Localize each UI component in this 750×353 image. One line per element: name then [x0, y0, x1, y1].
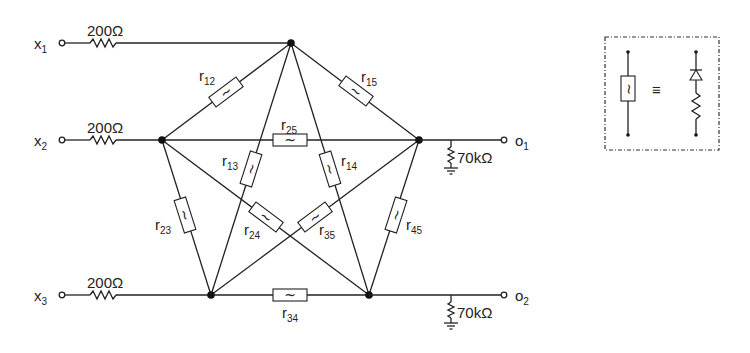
- output-o1: 70kΩ o1: [419, 132, 529, 174]
- label-r12: r12: [199, 67, 216, 87]
- label-x3: x3: [34, 287, 48, 307]
- resistor-200-icon: [90, 39, 116, 47]
- input-x2: x2 200Ω: [34, 119, 162, 152]
- terminal-x1: [59, 40, 65, 46]
- load-value-o1: 70kΩ: [457, 149, 492, 166]
- resistor-value-x1: 200Ω: [87, 22, 123, 39]
- element-r14: ~: [317, 150, 342, 187]
- terminal-x2: [59, 137, 65, 143]
- resistor-70k-icon: [448, 302, 454, 318]
- element-r24: ~: [248, 200, 285, 233]
- label-r23: r23: [155, 216, 172, 236]
- circuit-diagram: x1 200Ω x2 200Ω x3 200Ω ~ r12: [0, 0, 750, 353]
- resistor-70k-icon: [448, 147, 454, 163]
- resistor-value-x2: 200Ω: [87, 119, 123, 136]
- label-x2: x2: [34, 132, 48, 152]
- node-1: [287, 39, 295, 47]
- node-3: [207, 291, 215, 299]
- resistor-200-icon: [90, 291, 116, 299]
- label-r34: r34: [282, 304, 299, 324]
- equivalence-symbol: ≡: [652, 81, 661, 98]
- element-r35: ~: [297, 200, 334, 233]
- nonlinear-resistor-icon: ~: [621, 50, 637, 137]
- label-r45: r45: [406, 216, 423, 236]
- terminal-o2: [501, 292, 507, 298]
- label-o2: o2: [515, 287, 529, 307]
- element-r45: ~: [383, 196, 409, 233]
- legend-box: ~ ≡: [605, 37, 719, 150]
- resistor-200-icon: [90, 136, 116, 144]
- svg-text:~: ~: [621, 83, 637, 95]
- terminal-x3: [59, 292, 65, 298]
- input-x1: x1 200Ω: [34, 22, 291, 55]
- element-r23: ~: [172, 196, 198, 233]
- resistor-value-x3: 200Ω: [87, 274, 123, 291]
- label-r24: r24: [244, 221, 261, 241]
- diode-resistor-icon: [690, 50, 702, 137]
- input-x3: x3 200Ω: [34, 274, 211, 307]
- load-value-o2: 70kΩ: [457, 304, 492, 321]
- label-r13: r13: [222, 152, 239, 172]
- output-o2: 70kΩ o2: [369, 287, 529, 329]
- element-r13: ~: [238, 150, 264, 187]
- zigzag-resistor-icon: [692, 93, 700, 119]
- label-r14: r14: [341, 152, 358, 172]
- label-r35: r35: [319, 221, 336, 241]
- label-r15: r15: [361, 68, 378, 88]
- label-x1: x1: [34, 35, 48, 55]
- element-r34: ~: [273, 287, 307, 303]
- terminal-o1: [501, 137, 507, 143]
- node-2: [158, 136, 166, 144]
- label-o1: o1: [515, 132, 529, 152]
- svg-text:~: ~: [284, 287, 296, 303]
